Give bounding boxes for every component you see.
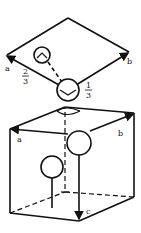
a-axis-arrow-cube: [11, 129, 68, 134]
fraction-one-third: 1 3: [85, 81, 92, 100]
label-b-cube: b: [118, 129, 123, 138]
unit-cell-cube: [10, 107, 134, 221]
svg-text:3: 3: [86, 91, 91, 100]
chevron-inside-atom: [37, 53, 47, 58]
atom-top-upper: [34, 47, 50, 63]
label-a-cube: a: [17, 135, 22, 144]
label-a-top: a: [5, 64, 10, 73]
top-rhombus: [7, 18, 129, 101]
label-b-top: b: [127, 57, 132, 66]
svg-text:2: 2: [23, 67, 28, 76]
crystal-cell-diagram: a b 2 3 1 3 a b c: [0, 0, 141, 233]
label-c-cube: c: [86, 207, 91, 216]
dashed-connector-top: [48, 62, 62, 82]
b-axis-arrow-cube: [90, 114, 133, 131]
svg-text:1: 1: [86, 81, 91, 90]
svg-text:3: 3: [23, 77, 28, 86]
atom-cube-inner: [41, 156, 63, 178]
fraction-two-thirds: 2 3: [22, 67, 29, 86]
atom-cube-front: [67, 131, 91, 155]
